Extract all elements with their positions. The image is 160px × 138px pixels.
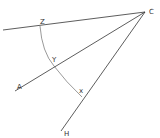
label-y: Y [51, 56, 57, 64]
ray-ca [15, 12, 145, 91]
ray-ch [61, 12, 145, 131]
label-x: x [79, 87, 83, 95]
label-a: A [17, 83, 22, 91]
label-z: Z [40, 18, 45, 26]
label-h: H [64, 130, 69, 138]
angle-diagram: C Z Y x A H [0, 0, 160, 138]
label-c: C [149, 8, 154, 16]
arc-zyx [40, 26, 82, 97]
ray-cz [3, 12, 145, 30]
